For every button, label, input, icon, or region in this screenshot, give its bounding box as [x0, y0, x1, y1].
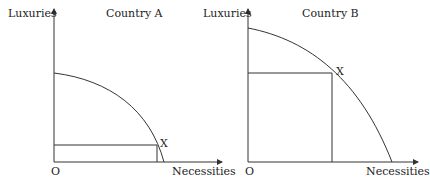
country-b-ppf-curve [248, 28, 392, 162]
country-b-origin-label: O [245, 166, 254, 177]
country-b-title: Country B [302, 8, 359, 19]
country-b-graph [248, 9, 418, 162]
country-a-y-axis-label: Luxuries [8, 8, 57, 19]
country-a-title: Country A [106, 8, 163, 19]
country-a-x-axis-label: Necessities [172, 166, 236, 177]
country-a-ppf-curve [54, 73, 164, 162]
country-b-y-axis-label: Luxuries [203, 8, 252, 19]
country-b-point-x-label: X [336, 66, 344, 77]
country-a-graph [54, 9, 222, 162]
country-b-x-axis-label: Necessities [366, 166, 430, 177]
country-a-point-x-label: X [160, 138, 168, 149]
country-a-origin-label: O [51, 166, 60, 177]
